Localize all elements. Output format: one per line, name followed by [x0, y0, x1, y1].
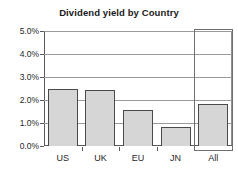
- y-axis-label: 2.0%: [20, 95, 39, 105]
- bar-uk[interactable]: [85, 90, 115, 146]
- y-axis-label: 1.0%: [20, 118, 39, 128]
- y-axis-label: 3.0%: [20, 72, 39, 82]
- y-axis-label: 0.0%: [20, 141, 39, 151]
- x-axis-tick: [82, 147, 83, 151]
- category-selection-box[interactable]: [194, 29, 233, 151]
- y-axis-line: [44, 31, 45, 146]
- y-axis-label: 4.0%: [20, 49, 39, 59]
- x-axis-tick: [157, 147, 158, 151]
- chart-title: Dividend yield by Country: [0, 7, 238, 18]
- x-axis-label-all[interactable]: All: [208, 153, 218, 163]
- chart-container: Dividend yield by Country 0.0%1.0%2.0%3.…: [0, 0, 238, 179]
- x-axis-label-uk[interactable]: UK: [94, 153, 107, 163]
- x-axis-label-jn[interactable]: JN: [170, 153, 181, 163]
- bar-jn[interactable]: [161, 127, 191, 146]
- bar-eu[interactable]: [123, 110, 153, 146]
- x-axis-tick: [119, 147, 120, 151]
- y-axis-label: 5.0%: [20, 26, 39, 36]
- x-axis-label-us[interactable]: US: [57, 153, 70, 163]
- bar-us[interactable]: [48, 89, 78, 146]
- x-axis-label-eu[interactable]: EU: [132, 153, 145, 163]
